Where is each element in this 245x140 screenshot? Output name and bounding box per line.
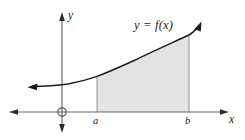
shaded-area-region bbox=[97, 35, 189, 112]
integral-area-figure: y = f(x) y x a b bbox=[0, 0, 245, 140]
x-axis-right-arrowhead bbox=[220, 109, 229, 115]
lower-limit-label: a bbox=[93, 116, 98, 127]
curve-left-arrowhead bbox=[28, 84, 38, 91]
function-curve-label: y = f(x) bbox=[134, 19, 173, 32]
y-axis-bottom-arrowhead bbox=[59, 124, 65, 133]
y-axis-top-arrowhead bbox=[59, 12, 65, 21]
x-axis-left-arrowhead bbox=[9, 109, 18, 115]
x-axis-label: x bbox=[229, 114, 234, 126]
upper-limit-label: b bbox=[185, 116, 190, 127]
y-axis-label: y bbox=[68, 10, 73, 22]
figure-canvas bbox=[0, 0, 245, 140]
